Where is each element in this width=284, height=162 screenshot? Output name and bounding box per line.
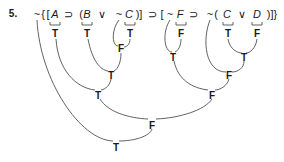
problem-number: 5. xyxy=(9,8,17,20)
curve-A-implies xyxy=(56,39,95,90)
truth-value-A: T xyxy=(52,28,58,39)
formula-token-paren-open: ( xyxy=(214,8,218,20)
truth-value-left-implication: T xyxy=(95,90,101,101)
formula-token-paren-open: ( xyxy=(79,8,83,20)
truth-value-F: F xyxy=(178,28,184,39)
truth-value-C-or-D: T xyxy=(241,52,247,63)
formula-token-implies: ⊃ xyxy=(64,8,73,20)
formula-token-or: ∨ xyxy=(238,8,246,20)
curve-negation-whole xyxy=(37,20,113,141)
formula-variable-F: F xyxy=(177,8,184,20)
truth-table-diagram: 5. ~ { [ A ⊃ ( B ∨ ~ C )] ⊃ [ ~ F ⊃ ~ ( … xyxy=(0,0,284,162)
truth-value-B-or-not-C: T xyxy=(108,70,114,81)
truth-value-C: T xyxy=(127,28,133,39)
formula-variable-A: A xyxy=(51,8,58,20)
truth-value-not-C: F xyxy=(118,43,124,54)
truth-value-not-C-or-D: F xyxy=(226,70,232,81)
curve-not-F-implies xyxy=(174,61,208,90)
bracket-C2 xyxy=(223,22,233,25)
formula-variable-D: D xyxy=(253,8,261,20)
truth-value-D: F xyxy=(254,28,260,39)
bracket-C1 xyxy=(125,22,135,25)
formula-token-or: ∨ xyxy=(98,8,106,20)
evaluation-curves xyxy=(0,0,284,162)
formula-token-close: )] xyxy=(136,8,143,20)
formula-token-implies: ⊃ xyxy=(189,8,198,20)
formula-token-bracket-open: [ xyxy=(160,8,163,20)
formula-token-close: )]} xyxy=(267,8,277,20)
truth-value-whole-formula: T xyxy=(113,142,119,153)
truth-value-B: T xyxy=(84,28,90,39)
curve-C-or-D xyxy=(228,39,242,53)
curve-not-F xyxy=(165,20,172,52)
formula-token-negation: ~ xyxy=(116,8,122,20)
bracket-D xyxy=(252,22,262,25)
truth-value-not-F: T xyxy=(170,52,176,63)
bracket-A xyxy=(50,22,60,25)
truth-value-C: T xyxy=(225,28,231,39)
curve-not-C-or-D xyxy=(206,20,226,72)
formula-token-negation: ~ xyxy=(34,8,40,20)
formula-variable-B: B xyxy=(83,8,90,20)
truth-value-right-implication: F xyxy=(209,90,215,101)
formula-token-negation: ~ xyxy=(167,8,173,20)
formula-token-brace-open: { xyxy=(41,8,45,20)
formula-variable-C: C xyxy=(223,8,231,20)
formula-token-negation: ~ xyxy=(207,8,213,20)
formula-variable-C: C xyxy=(125,8,133,20)
bracket-F xyxy=(176,22,186,25)
formula-token-implies: ⊃ xyxy=(148,8,157,20)
truth-value-main-implication: F xyxy=(149,120,155,131)
curve-main-implication xyxy=(100,99,148,119)
curve-B-or-not-C xyxy=(88,39,108,71)
bracket-B xyxy=(82,22,92,25)
formula-token-bracket-open: [ xyxy=(46,8,49,20)
